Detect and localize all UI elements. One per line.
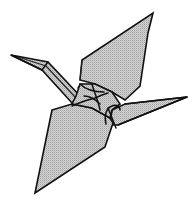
neck-and-head bbox=[11, 55, 86, 103]
tail bbox=[110, 97, 187, 125]
origami-crane-illustration bbox=[0, 0, 193, 207]
lower-wing bbox=[35, 104, 113, 193]
